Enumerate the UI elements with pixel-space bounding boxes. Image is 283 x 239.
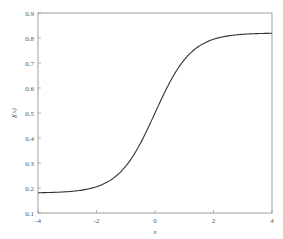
y-tick-label: 0.4 [25, 135, 34, 143]
y-axis-ticks: 0.10.20.30.40.50.60.70.80.9 [25, 10, 41, 218]
y-tick-label: 0.6 [25, 85, 34, 93]
y-tick-label: 0.5 [25, 110, 34, 118]
x-tick-label: -4 [35, 217, 41, 225]
data-line [38, 33, 272, 192]
x-tick-label: 2 [212, 217, 216, 225]
y-tick-label: 0.7 [25, 60, 34, 68]
plot-area: 0.10.20.30.40.50.60.70.80.9 -4-2024 x f(… [10, 10, 274, 237]
y-tick-label: 0.2 [25, 185, 34, 193]
x-axis-label: x [152, 228, 157, 236]
x-axis-ticks: -4-2024 [35, 210, 274, 225]
y-tick-label: 0.3 [25, 160, 34, 168]
x-tick-label: 0 [153, 217, 157, 225]
y-axis-label: f(x) [10, 107, 18, 117]
y-tick-label: 0.9 [25, 10, 34, 18]
x-tick-label: 4 [270, 217, 274, 225]
y-tick-label: 0.8 [25, 35, 34, 43]
y-tick-label: 0.1 [25, 210, 34, 218]
x-tick-label: -2 [94, 217, 100, 225]
chart: 0.10.20.30.40.50.60.70.80.9 -4-2024 x f(… [0, 0, 283, 239]
